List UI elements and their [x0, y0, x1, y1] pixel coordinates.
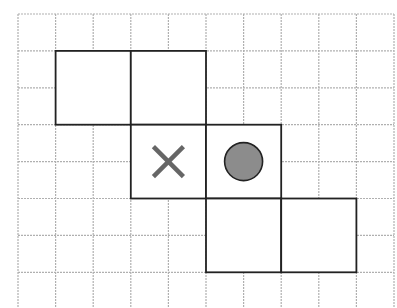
bold-square — [206, 199, 281, 273]
bold-square — [281, 199, 356, 273]
bold-square — [56, 51, 131, 125]
bold-square — [131, 51, 206, 125]
grid-diagram — [0, 0, 397, 308]
circle-icon — [225, 143, 263, 181]
